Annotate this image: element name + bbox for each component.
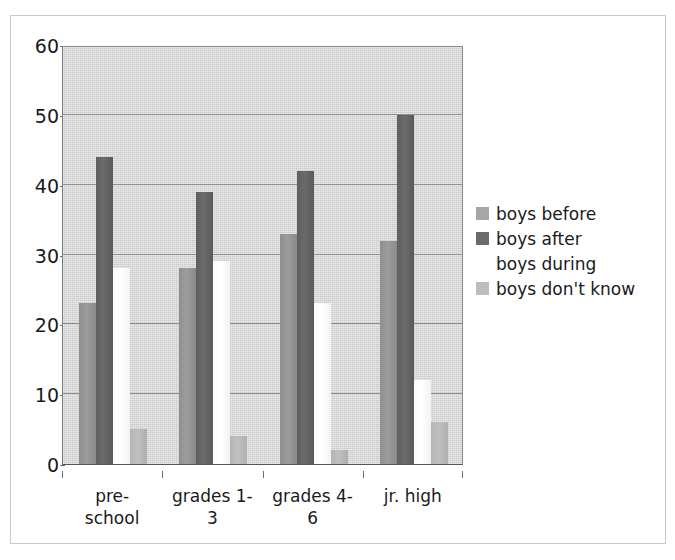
bar (297, 171, 314, 464)
bar (414, 380, 431, 464)
bar (380, 241, 397, 464)
bar-group (63, 47, 163, 464)
legend-item-label: boys don't know (496, 279, 635, 299)
x-axis-category-label-line: pre- (56, 485, 168, 507)
legend-item-label: boys after (496, 229, 582, 249)
x-axis-category-label: pre-school (56, 485, 168, 529)
legend-swatch-icon (476, 257, 489, 270)
bar (196, 192, 213, 464)
legend-swatch-icon (476, 207, 489, 220)
x-axis-category-label-line: grades 4- (257, 485, 369, 507)
x-axis-tick-mark (363, 471, 364, 478)
chart-frame: 0102030405060 pre-schoolgrades 1-3grades… (10, 15, 666, 544)
x-axis-category-label: grades 4-6 (257, 485, 369, 529)
bar (331, 450, 348, 464)
bar (397, 115, 414, 464)
x-axis-category-label: grades 1-3 (156, 485, 268, 529)
x-axis-tick-mark (462, 471, 463, 478)
x-axis-category-label-line: 3 (156, 507, 268, 529)
bar (314, 303, 331, 464)
legend-swatch-icon (476, 232, 489, 245)
legend-swatch-icon (476, 282, 489, 295)
y-axis-tick-label: 30 (13, 246, 59, 265)
bar-group (364, 47, 463, 464)
x-axis-category-label-line: grades 1- (156, 485, 268, 507)
x-axis-category-label-line: 6 (257, 507, 369, 529)
x-axis-category-label-line: jr. high (357, 485, 469, 507)
y-axis-tick-label: 50 (13, 106, 59, 125)
bar (213, 261, 230, 464)
x-axis-tick-mark (62, 471, 63, 478)
y-axis-tick-label: 60 (13, 37, 59, 56)
x-axis-category-label-line: school (56, 507, 168, 529)
y-axis: 0102030405060 (11, 46, 59, 465)
x-axis-tick-mark (263, 471, 264, 478)
bar (280, 234, 297, 464)
legend-item[interactable]: boys during (476, 251, 661, 276)
legend-item-label: boys before (496, 204, 596, 224)
legend-item-label: boys during (496, 254, 596, 274)
x-axis-category-label: jr. high (357, 485, 469, 507)
bar (113, 268, 130, 464)
legend-item[interactable]: boys before (476, 201, 661, 226)
bar (130, 429, 147, 464)
y-axis-tick-mark (60, 465, 65, 466)
bar-group (163, 47, 263, 464)
legend-item[interactable]: boys after (476, 226, 661, 251)
y-axis-tick-label: 0 (13, 456, 59, 475)
bar (79, 303, 96, 464)
y-axis-tick-label: 20 (13, 316, 59, 335)
chart-legend: boys beforeboys afterboys duringboys don… (476, 201, 661, 301)
x-axis-tick-mark (162, 471, 163, 478)
bar (179, 268, 196, 464)
y-axis-tick-label: 10 (13, 386, 59, 405)
bar (96, 157, 113, 464)
y-axis-tick-label: 40 (13, 176, 59, 195)
bar-group (264, 47, 364, 464)
bar (230, 436, 247, 464)
legend-item[interactable]: boys don't know (476, 276, 661, 301)
x-axis: pre-schoolgrades 1-3grades 4-6jr. high (62, 471, 463, 541)
plot-area (62, 46, 463, 465)
bar (431, 422, 448, 464)
